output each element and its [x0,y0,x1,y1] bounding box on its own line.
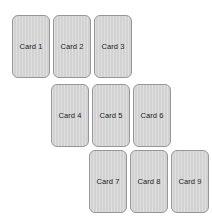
card-label: Card 4 [58,112,81,120]
card-item[interactable]: Card 1 [12,15,50,78]
card-item[interactable]: Card 6 [133,84,171,147]
card-label: Card 7 [96,178,119,186]
card-label: Card 3 [101,43,124,51]
card-label: Card 1 [19,43,42,51]
card-label: Card 9 [178,178,201,186]
card-label: Card 5 [99,112,122,120]
card-label: Card 6 [140,112,163,120]
card-item[interactable]: Card 7 [89,150,127,213]
card-item[interactable]: Card 5 [92,84,130,147]
card-row-1: Card 1 Card 2 Card 3 [12,15,132,78]
card-item[interactable]: Card 9 [171,150,209,213]
card-item[interactable]: Card 3 [94,15,132,78]
card-board: Card 1 Card 2 Card 3 Card 4 Card 5 Card … [0,0,212,221]
card-row-2: Card 4 Card 5 Card 6 [51,84,171,147]
card-item[interactable]: Card 2 [53,15,91,78]
card-label: Card 2 [60,43,83,51]
card-row-3: Card 7 Card 8 Card 9 [89,150,209,213]
card-label: Card 8 [137,178,160,186]
card-item[interactable]: Card 8 [130,150,168,213]
card-item[interactable]: Card 4 [51,84,89,147]
